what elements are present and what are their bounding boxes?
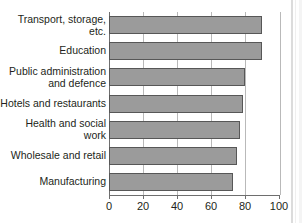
bar [109, 147, 237, 165]
x-tick-label-0: 0 [106, 200, 112, 212]
gridline-80 [245, 12, 246, 195]
page-edge-artifact [291, 0, 293, 223]
x-tick-label-20: 20 [137, 200, 149, 212]
x-tick-80 [245, 195, 246, 199]
page-edge-artifact [295, 0, 296, 223]
x-tick-20 [143, 195, 144, 199]
category-label: Public administration and defence [9, 66, 106, 89]
bar [109, 16, 262, 34]
category-label: Hotels and restaurants [0, 98, 106, 110]
category-label: Education [59, 45, 106, 57]
x-tick-label-60: 60 [205, 200, 217, 212]
x-tick-label-80: 80 [239, 200, 251, 212]
x-tick-100 [279, 195, 280, 199]
x-tick-40 [177, 195, 178, 199]
x-tick-label-100: 100 [270, 200, 288, 212]
category-label: Manufacturing [39, 176, 106, 188]
x-axis-line [109, 195, 280, 196]
bar [109, 173, 233, 191]
bar [109, 42, 262, 60]
page-edge-artifact [299, 0, 302, 223]
category-label: Wholesale and retail [11, 150, 106, 162]
bar [109, 121, 240, 139]
bar-chart: 020406080100 Transport, storage, etc.Edu… [0, 0, 302, 223]
bar [109, 95, 243, 113]
category-label: Transport, storage, etc. [18, 14, 106, 37]
x-tick-60 [211, 195, 212, 199]
x-tick-0 [109, 195, 110, 199]
x-tick-label-40: 40 [171, 200, 183, 212]
category-label: Health and social work [25, 118, 106, 141]
bar [109, 68, 245, 86]
